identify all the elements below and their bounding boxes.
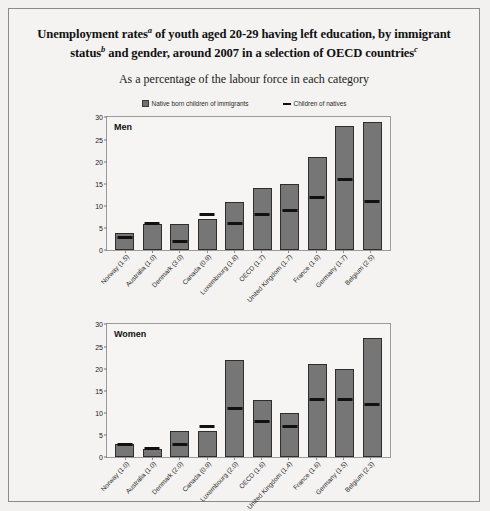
y-axis-tick-mark xyxy=(104,161,107,162)
bar-native-born-children-of-immigrants[interactable] xyxy=(225,202,244,251)
y-axis-tick-mark xyxy=(104,183,107,184)
title-superscript-c: c xyxy=(414,44,418,54)
y-axis-tick-mark xyxy=(104,117,107,118)
y-axis-tick-label: 20 xyxy=(95,365,103,372)
y-axis-tick-label: 10 xyxy=(95,203,103,210)
bar-native-born-children-of-immigrants[interactable] xyxy=(115,444,134,457)
marker-children-of-natives[interactable] xyxy=(282,209,297,212)
legend-label-children-of-natives: Children of natives xyxy=(294,100,347,107)
y-axis-tick-label: 25 xyxy=(95,343,103,350)
y-axis-tick-label: 0 xyxy=(99,247,103,254)
title-line2-part-a: status xyxy=(70,46,101,60)
y-axis-tick-label: 0 xyxy=(99,454,103,461)
marker-children-of-natives[interactable] xyxy=(255,213,270,216)
marker-children-of-natives[interactable] xyxy=(227,222,242,225)
bar-slot[interactable] xyxy=(139,324,167,457)
bar-slot[interactable] xyxy=(221,117,249,250)
bar-slot[interactable] xyxy=(166,117,194,250)
marker-children-of-natives[interactable] xyxy=(200,213,215,216)
marker-children-of-natives[interactable] xyxy=(365,403,380,406)
bar-native-born-children-of-immigrants[interactable] xyxy=(170,224,189,251)
y-axis-tick-mark xyxy=(104,435,107,436)
bar-slot[interactable] xyxy=(304,324,332,457)
marker-children-of-natives[interactable] xyxy=(310,398,325,401)
bar-native-born-children-of-immigrants[interactable] xyxy=(198,431,217,458)
marker-children-of-natives[interactable] xyxy=(200,425,215,428)
bar-slot[interactable] xyxy=(304,117,332,250)
bar-slot[interactable] xyxy=(221,324,249,457)
x-axis-tick-label: Belgium (2.5) xyxy=(344,253,376,286)
marker-children-of-natives[interactable] xyxy=(117,443,132,446)
marker-children-of-natives[interactable] xyxy=(337,178,352,181)
bar-slot[interactable] xyxy=(139,117,167,250)
y-axis-tick-label: 5 xyxy=(99,432,103,439)
bar-native-born-children-of-immigrants[interactable] xyxy=(143,224,162,251)
marker-children-of-natives[interactable] xyxy=(227,407,242,410)
title-line2-part-b: and gender, around 2007 in a selection o… xyxy=(105,46,414,60)
bar-native-born-children-of-immigrants[interactable] xyxy=(308,157,327,250)
figure-frame: Unemployment ratesa of youth aged 20-29 … xyxy=(8,8,480,502)
y-axis-tick-mark xyxy=(104,346,107,347)
bar-group-men xyxy=(111,117,386,250)
panel-label-women: Women xyxy=(114,329,146,339)
plot-area-men: Men 051015202530 xyxy=(106,116,391,251)
bar-slot[interactable] xyxy=(359,324,387,457)
x-axis-men: Norway (1.5)Australia (1.0)Denmark (3.0)… xyxy=(106,251,391,309)
y-axis-tick-mark xyxy=(104,413,107,414)
bar-native-born-children-of-immigrants[interactable] xyxy=(280,184,299,251)
marker-children-of-natives[interactable] xyxy=(172,240,187,243)
figure-subtitle: As a percentage of the labour force in e… xyxy=(9,72,479,87)
bar-slot[interactable] xyxy=(359,117,387,250)
legend-bar-swatch-icon xyxy=(142,100,149,107)
bar-slot[interactable] xyxy=(331,117,359,250)
marker-children-of-natives[interactable] xyxy=(255,420,270,423)
panel-women: Women 051015202530 Norway (1.0)Australia… xyxy=(79,323,409,511)
panel-men: Men 051015202530 Norway (1.5)Australia (… xyxy=(79,116,409,309)
bar-native-born-children-of-immigrants[interactable] xyxy=(253,188,272,250)
y-axis-tick-label: 20 xyxy=(95,158,103,165)
bar-slot[interactable] xyxy=(111,324,139,457)
bar-native-born-children-of-immigrants[interactable] xyxy=(198,219,217,250)
bar-slot[interactable] xyxy=(276,117,304,250)
bar-slot[interactable] xyxy=(276,324,304,457)
y-axis-tick-mark xyxy=(104,390,107,391)
bar-slot[interactable] xyxy=(249,324,277,457)
y-axis-tick-label: 30 xyxy=(95,114,103,121)
bar-native-born-children-of-immigrants[interactable] xyxy=(280,413,299,457)
bar-native-born-children-of-immigrants[interactable] xyxy=(335,369,354,458)
y-axis-tick-label: 15 xyxy=(95,387,103,394)
marker-children-of-natives[interactable] xyxy=(337,398,352,401)
legend-item-native-born-children-of-immigrants: Native born children of immigrants xyxy=(142,100,249,107)
panel-label-men: Men xyxy=(114,122,132,132)
marker-children-of-natives[interactable] xyxy=(145,447,160,450)
y-axis-tick-mark xyxy=(104,206,107,207)
plot-area-women: Women 051015202530 xyxy=(106,323,391,458)
legend-item-children-of-natives: Children of natives xyxy=(283,100,347,107)
marker-children-of-natives[interactable] xyxy=(282,425,297,428)
y-axis-tick-mark xyxy=(104,324,107,325)
bar-slot[interactable] xyxy=(166,324,194,457)
marker-children-of-natives[interactable] xyxy=(172,443,187,446)
bar-slot[interactable] xyxy=(194,117,222,250)
marker-children-of-natives[interactable] xyxy=(117,236,132,239)
marker-children-of-natives[interactable] xyxy=(145,222,160,225)
legend-label-native-born: Native born children of immigrants xyxy=(152,100,249,107)
bar-slot[interactable] xyxy=(111,117,139,250)
x-axis-tick-label: Belgium (2.3) xyxy=(344,460,376,493)
bar-group-women xyxy=(111,324,386,457)
bar-native-born-children-of-immigrants[interactable] xyxy=(363,122,382,251)
bar-native-born-children-of-immigrants[interactable] xyxy=(308,364,327,457)
y-axis-tick-label: 25 xyxy=(95,136,103,143)
marker-children-of-natives[interactable] xyxy=(310,196,325,199)
bar-slot[interactable] xyxy=(249,117,277,250)
bar-native-born-children-of-immigrants[interactable] xyxy=(253,400,272,458)
bar-slot[interactable] xyxy=(194,324,222,457)
marker-children-of-natives[interactable] xyxy=(365,200,380,203)
bar-slot[interactable] xyxy=(331,324,359,457)
bar-native-born-children-of-immigrants[interactable] xyxy=(335,126,354,250)
x-axis-tick-label: OECD (1.7) xyxy=(238,253,267,283)
bar-native-born-children-of-immigrants[interactable] xyxy=(363,338,382,458)
x-axis-tick-label: OECD (1.6) xyxy=(238,460,267,490)
y-axis-tick-label: 10 xyxy=(95,410,103,417)
x-axis-women: Norway (1.0)Australia (1.0)Denmark (2.0)… xyxy=(106,458,391,511)
